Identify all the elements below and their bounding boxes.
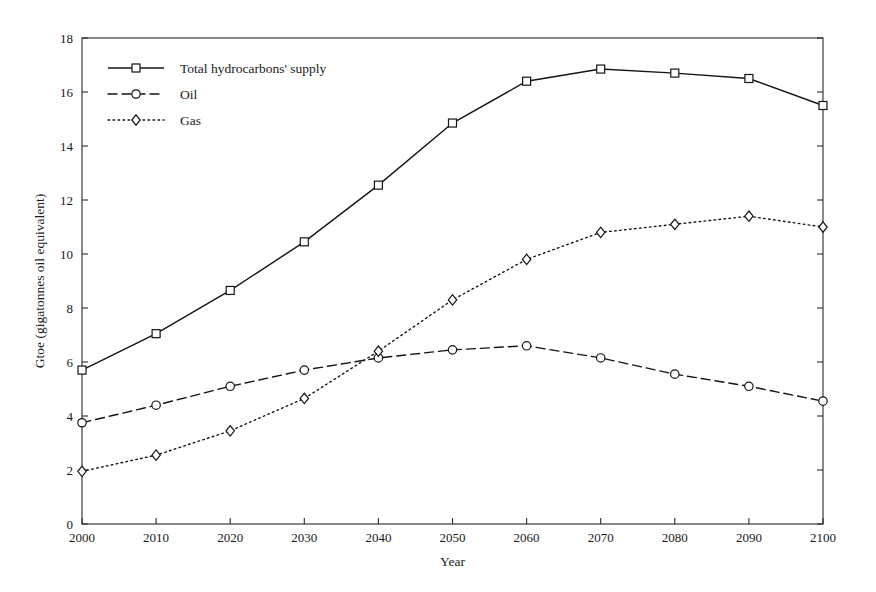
y-tick-label: 10 [60, 247, 73, 262]
legend-label: Total hydrocarbons' supply [180, 61, 326, 76]
y-tick-label: 6 [67, 355, 74, 370]
plot-frame [82, 38, 823, 524]
line-chart: 0246810121416182000201020202030204020502… [0, 0, 876, 592]
legend-marker [132, 64, 140, 72]
y-tick-label: 4 [67, 409, 74, 424]
data-point-marker [745, 382, 753, 390]
data-point-marker [448, 346, 456, 354]
x-tick-label: 2050 [440, 530, 466, 545]
chart-figure: 0246810121416182000201020202030204020502… [0, 0, 876, 592]
y-tick-label: 16 [60, 85, 74, 100]
data-point-marker [300, 238, 308, 246]
data-point-marker [819, 102, 827, 110]
data-point-marker [78, 466, 86, 476]
y-axis-title: Gtoe (gigatonnes oil equivalent) [32, 194, 47, 368]
data-point-marker [300, 366, 308, 374]
data-point-marker [152, 450, 160, 460]
y-tick-label: 2 [67, 463, 74, 478]
legend-label: Gas [180, 113, 201, 128]
x-tick-label: 2030 [291, 530, 317, 545]
data-point-marker [745, 211, 753, 221]
data-point-marker [448, 295, 456, 305]
data-point-marker [374, 181, 382, 189]
data-point-marker [522, 342, 530, 350]
y-tick-label: 18 [60, 31, 73, 46]
series-oil [78, 342, 827, 427]
legend-marker [132, 90, 140, 98]
data-point-marker [78, 366, 86, 374]
series-gas [78, 211, 827, 477]
chart-legend: Total hydrocarbons' supplyOilGas [108, 61, 326, 128]
x-tick-label: 2010 [143, 530, 169, 545]
data-point-marker [523, 77, 531, 85]
x-tick-label: 2000 [69, 530, 95, 545]
data-point-marker [226, 382, 234, 390]
data-point-marker [671, 219, 679, 229]
x-tick-label: 2020 [217, 530, 243, 545]
x-tick-label: 2040 [365, 530, 391, 545]
data-point-marker [78, 419, 86, 427]
data-point-marker [449, 119, 457, 127]
x-tick-label: 2090 [736, 530, 762, 545]
data-point-marker [819, 397, 827, 405]
x-tick-label: 2070 [588, 530, 614, 545]
series-path [82, 346, 823, 423]
data-point-marker [522, 254, 530, 264]
data-point-marker [226, 286, 234, 294]
x-axis-title: Year [440, 554, 465, 569]
data-point-marker [819, 222, 827, 232]
data-point-marker [597, 65, 605, 73]
data-point-marker [597, 354, 605, 362]
data-point-marker [152, 330, 160, 338]
data-point-marker [300, 393, 308, 403]
y-tick-label: 12 [60, 193, 73, 208]
y-tick-label: 8 [67, 301, 74, 316]
data-point-marker [745, 75, 753, 83]
data-point-marker [597, 227, 605, 237]
legend-marker [132, 115, 140, 125]
x-tick-label: 2100 [810, 530, 836, 545]
data-point-marker [671, 69, 679, 77]
x-tick-label: 2080 [662, 530, 688, 545]
legend-label: Oil [180, 87, 198, 102]
data-point-marker [152, 401, 160, 409]
x-tick-label: 2060 [514, 530, 540, 545]
series-path [82, 216, 823, 471]
data-point-marker [671, 370, 679, 378]
data-point-marker [226, 426, 234, 436]
y-tick-label: 14 [60, 139, 74, 154]
